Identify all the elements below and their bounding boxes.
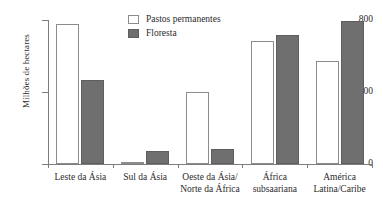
legend-swatch-floresta <box>128 29 139 38</box>
bar-group <box>48 20 113 164</box>
bar-floresta <box>341 21 364 164</box>
x-axis-category-label: América Latina/Caribe <box>293 171 383 195</box>
x-axis-tick <box>307 164 308 168</box>
bar-pastos-permanentes <box>121 162 144 164</box>
legend-label-pastos-permanentes: Pastos permanentes <box>146 14 221 24</box>
bar-floresta <box>276 35 299 164</box>
chart-legend: Pastos permanentes Floresta <box>128 14 221 42</box>
bar-floresta <box>146 151 169 164</box>
x-axis-tick <box>242 164 243 168</box>
legend-item-floresta: Floresta <box>128 28 221 38</box>
bar-pastos-permanentes <box>186 92 209 164</box>
bar-group <box>307 20 372 164</box>
x-axis-tick <box>113 164 114 168</box>
x-axis-tick <box>372 164 373 168</box>
legend-swatch-pastos-permanentes <box>128 15 139 24</box>
legend-label-floresta: Floresta <box>146 28 177 38</box>
bar-floresta <box>211 149 234 164</box>
x-axis-tick <box>178 164 179 168</box>
bar-group <box>242 20 307 164</box>
bar-floresta <box>81 80 104 164</box>
bar-chart: Milhões de hectares 0400800 Leste da Ási… <box>0 0 383 210</box>
bar-pastos-permanentes <box>251 41 274 164</box>
x-axis-tick <box>48 164 49 168</box>
x-axis-line <box>48 164 372 165</box>
y-axis-title: Milhões de hectares <box>21 1 31 141</box>
legend-item-pastos-permanentes: Pastos permanentes <box>128 14 221 24</box>
bar-pastos-permanentes <box>56 24 79 164</box>
bar-pastos-permanentes <box>316 61 339 164</box>
